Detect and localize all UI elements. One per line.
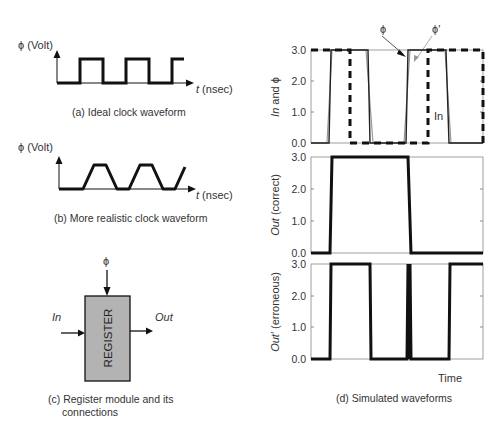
register-clock-label: ϕ <box>103 255 109 267</box>
panel-b-trapezoid-wave <box>59 165 185 189</box>
svg-text:2.0: 2.0 <box>291 290 306 302</box>
svg-text:2.0: 2.0 <box>291 183 306 195</box>
svg-text:1.0: 1.0 <box>291 321 306 333</box>
svg-text:3.0: 3.0 <box>291 258 306 270</box>
plot3-ylabel: Out′ (erroneous) <box>269 272 281 352</box>
svg-text:3.0: 3.0 <box>291 151 306 163</box>
out-correct-trace <box>311 157 483 253</box>
panel-d-simulated-waveforms: ϕ ϕ′ 3.0 2.0 1.0 0.0 In and ϕ <box>269 23 483 404</box>
plot-out-erroneous: 3.0 2.0 1.0 0.0 Out′ (erroneous) <box>269 258 483 365</box>
phi-trace <box>311 50 483 143</box>
panel-a-x-arrow-icon <box>186 80 194 87</box>
register-block-label: REGISTER <box>102 309 114 368</box>
plot-in-and-phi: 3.0 2.0 1.0 0.0 In and ϕ In <box>269 44 483 149</box>
plot1-yticks: 3.0 2.0 1.0 0.0 <box>291 44 483 149</box>
panel-b-ylabel: ϕ (Volt) <box>18 141 53 153</box>
annotation-in: In <box>434 110 443 122</box>
plot1-frame <box>311 50 483 143</box>
clock-arrow-icon <box>104 287 111 296</box>
panel-a-ylabel: ϕ (Volt) <box>18 39 53 51</box>
panel-a-caption: (a) Ideal clock waveform <box>72 106 186 118</box>
panel-c-register: ϕ REGISTER In Out (c) Register module an… <box>48 255 174 418</box>
plot3-yticks: 3.0 2.0 1.0 0.0 <box>291 258 483 365</box>
svg-text:1.0: 1.0 <box>291 106 306 118</box>
panel-d-xlabel: Time <box>438 372 462 384</box>
output-arrow-icon <box>146 328 153 335</box>
in-trace <box>311 50 483 143</box>
annotation-phi-prime-line <box>417 36 432 58</box>
input-arrow-icon <box>78 330 85 337</box>
figure-canvas: ϕ (Volt) t (nsec) (a) Ideal clock wavefo… <box>0 0 501 433</box>
plot2-ylabel: Out (correct) <box>269 174 281 236</box>
svg-text:0.0: 0.0 <box>291 353 306 365</box>
register-input-label: In <box>52 311 61 323</box>
annotation-phi: ϕ <box>380 23 386 35</box>
panel-a-ideal-clock: ϕ (Volt) t (nsec) (a) Ideal clock wavefo… <box>18 39 233 118</box>
phi-prime-trace <box>311 50 483 143</box>
panel-a-square-wave <box>57 59 184 83</box>
panel-b-realistic-clock: ϕ (Volt) t (nsec) (b) More realistic clo… <box>18 141 233 224</box>
svg-text:3.0: 3.0 <box>291 44 306 56</box>
plot3-frame <box>311 264 483 359</box>
register-output-label: Out <box>155 311 174 323</box>
svg-text:1.0: 1.0 <box>291 215 306 227</box>
svg-text:0.0: 0.0 <box>291 137 306 149</box>
panel-c-caption-line1: (c) Register module and its <box>48 393 173 405</box>
plot1-ylabel: In and ϕ <box>269 77 281 117</box>
panel-b-caption: (b) More realistic clock waveform <box>54 212 208 224</box>
plot-out-correct: 3.0 2.0 1.0 0.0 Out (correct) <box>269 151 483 259</box>
panel-c-caption-line2: connections <box>62 406 118 418</box>
panel-a-y-arrow-icon <box>54 50 61 58</box>
svg-text:2.0: 2.0 <box>291 75 306 87</box>
annotation-phi-prime: ϕ′ <box>432 23 440 35</box>
out-erroneous-trace <box>311 264 483 359</box>
panel-b-xlabel: t (nsec) <box>196 189 233 201</box>
panel-b-y-arrow-icon <box>56 156 63 164</box>
plot2-yticks: 3.0 2.0 1.0 0.0 <box>291 151 483 259</box>
plot2-frame <box>311 157 483 253</box>
panel-b-x-arrow-icon <box>188 186 196 193</box>
panel-a-xlabel: t (nsec) <box>196 83 233 95</box>
panel-d-caption: (d) Simulated waveforms <box>336 392 452 404</box>
